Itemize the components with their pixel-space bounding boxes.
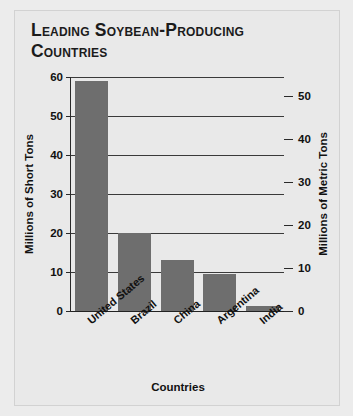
y-tick-right-30 (284, 182, 293, 183)
bar-series (71, 77, 284, 311)
y-tick-label-left-20: 20 (50, 227, 63, 239)
y-tick-right-0 (284, 311, 293, 312)
y-tick-left-0 (66, 311, 71, 312)
y-tick-label-right-10: 10 (298, 262, 311, 274)
y-tick-label-left-0: 0 (57, 305, 63, 317)
y-tick-label-left-10: 10 (50, 266, 63, 278)
x-axis-title: Countries (15, 381, 341, 393)
y-tick-label-right-30: 30 (298, 176, 311, 188)
y-tick-label-right-50: 50 (298, 90, 311, 102)
y-tick-label-left-30: 30 (50, 188, 63, 200)
y-tick-label-left-40: 40 (50, 149, 63, 161)
plot-area: 0102030405060 01020304050 (70, 77, 284, 311)
y-tick-label-left-50: 50 (50, 110, 63, 122)
y-tick-label-right-40: 40 (298, 133, 311, 145)
chart-page: Leading Soybean-Producing Countries Mill… (0, 0, 353, 416)
y-tick-right-10 (284, 268, 293, 269)
chart-title: Leading Soybean-Producing Countries (31, 20, 323, 62)
chart-panel: Leading Soybean-Producing Countries Mill… (14, 10, 340, 406)
y-axis-title-left: Millions of Short Tons (23, 134, 35, 254)
y-tick-label-right-0: 0 (298, 305, 304, 317)
y-tick-label-right-20: 20 (298, 219, 311, 231)
y-tick-right-40 (284, 139, 293, 140)
y-axis-title-right: Millions of Metric Tons (317, 132, 329, 256)
y-tick-right-20 (284, 225, 293, 226)
y-tick-label-left-60: 60 (50, 71, 63, 83)
bar-united-states (75, 81, 108, 311)
y-tick-right-50 (284, 96, 293, 97)
